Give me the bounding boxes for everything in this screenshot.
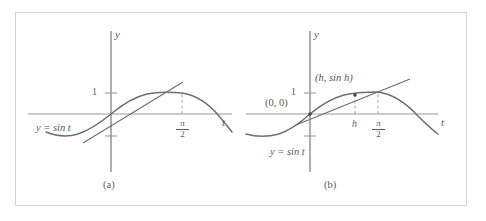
pi-numerator-a: π	[176, 119, 189, 128]
pi-over-two-label-a: π 2	[176, 119, 189, 140]
two-denominator-b: 2	[372, 130, 385, 139]
figure-root: y t 1 y = sin t π 2 (a)	[0, 0, 486, 221]
two-denominator-a: 2	[176, 130, 189, 139]
origin-point-marker-b	[308, 112, 312, 116]
caption-b: (b)	[324, 180, 336, 191]
panel-a-graphics	[16, 13, 242, 207]
caption-a: (a)	[103, 180, 115, 191]
h-tick-label-b: h	[352, 119, 357, 129]
tangent-line-a	[83, 82, 183, 143]
h-point-marker-b	[353, 93, 357, 97]
panel-b-graphics	[238, 13, 464, 207]
y-tick-one-label-b: 1	[291, 87, 296, 97]
figure-frame: y t 1 y = sin t π 2 (a)	[15, 12, 467, 206]
origin-point-label-b: (0, 0)	[265, 98, 288, 109]
curve-equation-label-b: y = sin t	[270, 147, 305, 158]
pi-over-two-label-b: π 2	[372, 119, 385, 140]
y-tick-one-label-a: 1	[92, 87, 97, 97]
pi-numerator-b: π	[372, 119, 385, 128]
y-axis-label-a: y	[115, 29, 120, 40]
panel-a: y t 1 y = sin t π 2 (a)	[16, 13, 242, 207]
y-axis-label-b: y	[314, 29, 319, 40]
t-axis-label-b: t	[441, 117, 444, 128]
curve-equation-label-a: y = sin t	[36, 123, 71, 134]
h-point-label-b: (h, sin h)	[315, 73, 353, 84]
t-axis-label-a: t	[222, 117, 225, 128]
panel-b: y t 1 (h, sin h) (0, 0) h π 2 y = sin t …	[238, 13, 464, 207]
